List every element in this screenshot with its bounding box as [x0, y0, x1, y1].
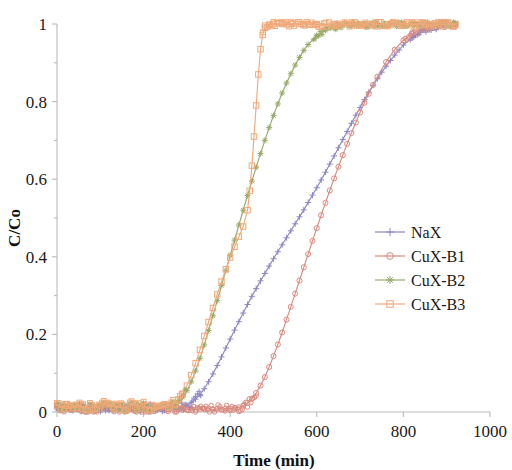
data-marker-plus: [236, 319, 242, 325]
data-marker-plus: [314, 185, 320, 191]
data-marker-plus: [219, 354, 225, 360]
data-marker-star: [296, 54, 302, 60]
series-group: [54, 19, 458, 414]
data-marker-star: [141, 400, 146, 405]
data-marker-plus: [266, 263, 272, 269]
series-cux-b3: [54, 21, 458, 411]
data-marker-plus: [262, 270, 268, 276]
data-marker-plus: [210, 371, 216, 377]
data-marker-plus: [309, 192, 315, 198]
data-marker-plus: [331, 153, 337, 159]
data-marker-star: [271, 113, 277, 119]
series-line: [57, 24, 455, 410]
data-marker-star: [266, 125, 272, 131]
x-axis-title: Time (min): [233, 451, 314, 470]
data-marker-plus: [292, 221, 298, 227]
series-cux-b1: [54, 21, 457, 412]
y-tick-label: 0.8: [26, 93, 47, 112]
chart-canvas: 02004006008001000 00.20.40.60.81 NaXCuX-…: [0, 0, 512, 470]
legend-label: CuX-B3: [411, 296, 465, 313]
data-marker-star: [292, 62, 298, 68]
legend-label: CuX-B2: [411, 272, 465, 289]
data-marker-star: [288, 71, 294, 77]
data-marker-plus: [240, 310, 246, 316]
y-tick-label: 0.2: [26, 325, 47, 344]
dense-sample-bands: [54, 19, 458, 414]
data-marker-star: [258, 151, 264, 157]
y-tick-label: 0.4: [26, 248, 48, 267]
data-marker-plus: [232, 327, 238, 333]
x-tick-label: 400: [217, 422, 243, 441]
data-marker-plus: [227, 336, 233, 342]
y-tick-label: 0.6: [26, 170, 47, 189]
data-marker-plus: [249, 293, 255, 299]
x-tick-label: 800: [391, 422, 417, 441]
legend-item-cux-b2[interactable]: CuX-B2: [375, 272, 465, 289]
x-tick-label: 600: [304, 422, 330, 441]
data-marker-plus: [301, 207, 307, 213]
data-marker-star: [262, 137, 268, 143]
data-marker-plus: [206, 379, 212, 385]
series-line: [57, 24, 455, 409]
legend-label: CuX-B1: [411, 248, 465, 265]
data-marker-plus: [214, 362, 220, 368]
axes-group: [52, 24, 490, 417]
y-tick-labels: 00.20.40.60.81: [26, 15, 48, 422]
chart-legend: NaXCuX-B1CuX-B2CuX-B3: [375, 224, 465, 313]
data-marker-plus: [318, 177, 324, 183]
x-tick-label: 0: [53, 422, 62, 441]
data-marker-plus: [271, 256, 277, 262]
legend-label: NaX: [411, 224, 442, 241]
data-marker-plus: [245, 302, 251, 308]
data-marker-plus: [305, 199, 311, 205]
x-tick-label: 1000: [473, 422, 507, 441]
data-marker-plus: [335, 145, 341, 151]
y-axis-title: C/Co: [5, 209, 24, 247]
data-marker-plus: [223, 345, 229, 351]
breakthrough-curve-chart: 02004006008001000 00.20.40.60.81 NaXCuX-…: [0, 0, 512, 470]
data-marker-plus: [283, 235, 289, 241]
data-marker-plus: [322, 169, 328, 175]
data-marker-plus: [253, 286, 259, 292]
data-marker-star: [283, 80, 289, 86]
data-marker-plus: [288, 228, 294, 234]
data-marker-star: [301, 47, 307, 53]
data-marker-star: [319, 32, 324, 37]
y-tick-label: 1: [39, 15, 48, 34]
x-tick-label: 200: [131, 422, 157, 441]
data-marker-star: [305, 42, 311, 48]
y-tick-label: 0: [39, 403, 48, 422]
data-marker-plus: [386, 228, 394, 236]
data-marker-star: [134, 408, 139, 413]
series-nax: [54, 21, 458, 412]
data-marker-star: [386, 276, 394, 284]
data-marker-plus: [279, 242, 285, 248]
legend-item-nax[interactable]: NaX: [375, 224, 442, 241]
series-cux-b2: [54, 21, 458, 412]
legend-item-cux-b3[interactable]: CuX-B3: [375, 296, 465, 313]
data-marker-plus: [340, 137, 346, 143]
x-tick-labels: 02004006008001000: [53, 422, 507, 441]
series-line: [57, 24, 455, 409]
data-marker-plus: [275, 249, 281, 255]
data-marker-star: [279, 90, 285, 96]
data-marker-star: [275, 101, 281, 107]
data-marker-plus: [258, 278, 264, 284]
data-marker-plus: [327, 161, 333, 167]
data-marker-plus: [296, 214, 302, 220]
data-marker-star: [249, 178, 255, 184]
legend-item-cux-b1[interactable]: CuX-B1: [375, 248, 465, 265]
series-line: [57, 24, 455, 408]
